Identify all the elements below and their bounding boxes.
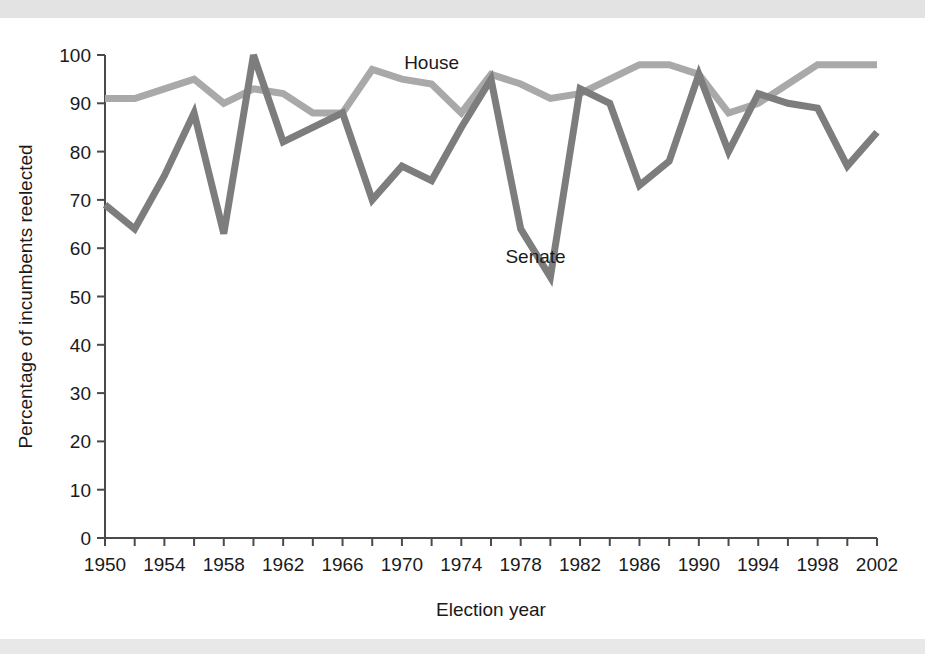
y-tick-label: 10: [70, 480, 91, 501]
chart-plot-area: 0102030405060708090100 19501954195819621…: [0, 18, 925, 639]
x-tick-label: 1970: [381, 554, 423, 575]
x-tick-label: 1958: [203, 554, 245, 575]
x-tick-label: 1978: [500, 554, 542, 575]
x-tick-label: 1962: [262, 554, 304, 575]
y-tick-label: 0: [80, 528, 91, 549]
y-tick-labels: 0102030405060708090100: [59, 45, 91, 549]
bottom-band: [0, 639, 925, 654]
series-line-senate: [105, 55, 877, 277]
y-tick-label: 20: [70, 431, 91, 452]
x-tick-label: 1974: [440, 554, 483, 575]
x-tick-label: 1950: [84, 554, 126, 575]
y-axis-title: Percentage of incumbents reelected: [15, 144, 36, 448]
top-band: [0, 0, 925, 18]
y-tick-label: 90: [70, 93, 91, 114]
y-tick-label: 70: [70, 190, 91, 211]
x-tick-label: 1986: [618, 554, 660, 575]
figure-page: 0102030405060708090100 19501954195819621…: [0, 0, 925, 654]
series-lines: [105, 55, 877, 277]
y-tick-label: 30: [70, 383, 91, 404]
x-tick-label: 1990: [678, 554, 720, 575]
axes-group: [97, 55, 877, 546]
y-tick-label: 80: [70, 142, 91, 163]
x-tick-label: 1994: [737, 554, 780, 575]
x-tick-label: 1998: [796, 554, 838, 575]
x-tick-label: 1966: [321, 554, 363, 575]
series-label-senate: Senate: [505, 246, 565, 267]
x-tick-label: 1982: [559, 554, 601, 575]
x-tick-label: 2002: [856, 554, 898, 575]
y-tick-label: 60: [70, 238, 91, 259]
y-tick-label: 100: [59, 45, 91, 66]
x-tick-labels: 1950195419581962196619701974197819821986…: [84, 554, 898, 575]
y-tick-label: 40: [70, 335, 91, 356]
line-chart: 0102030405060708090100 19501954195819621…: [0, 18, 925, 639]
series-label-house: House: [404, 52, 459, 73]
x-tick-label: 1954: [143, 554, 186, 575]
y-tick-label: 50: [70, 287, 91, 308]
x-axis-title: Election year: [436, 599, 547, 620]
